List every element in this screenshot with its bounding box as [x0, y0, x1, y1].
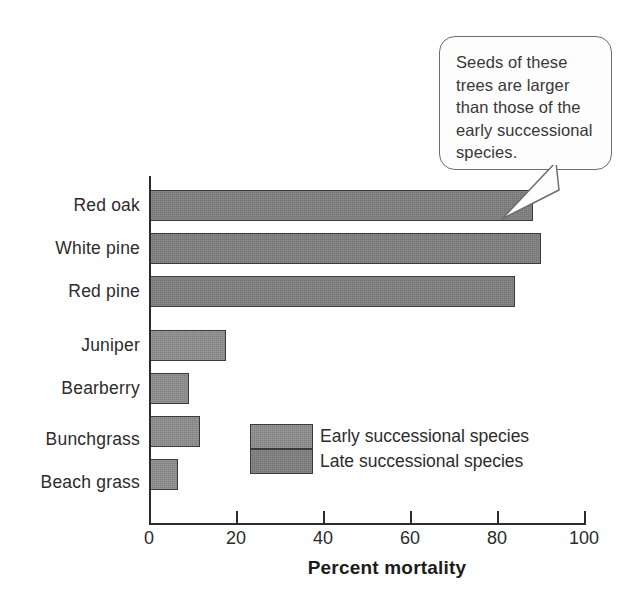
x-tick-60 [410, 511, 412, 523]
x-tick-label-60: 60 [400, 529, 420, 547]
x-tick-80 [497, 511, 499, 523]
bar-bearberry [150, 373, 189, 404]
bar-chart: Red oak White pine Red pine Juniper Bear… [0, 0, 634, 607]
x-tick-100 [584, 511, 586, 523]
annotation-callout: Seeds of these trees are larger than tho… [439, 36, 612, 170]
x-axis-line [149, 523, 586, 525]
x-axis-title: Percent mortality [0, 558, 634, 577]
legend-swatch-early-icon [250, 424, 313, 449]
bar-beach-grass [150, 459, 178, 490]
bar-red-oak [150, 190, 533, 221]
x-tick-label-100: 100 [569, 529, 599, 547]
category-label-white-pine: White pine [55, 240, 140, 258]
x-tick-label-0: 0 [144, 529, 154, 547]
category-label-juniper: Juniper [81, 337, 140, 355]
legend-label-early: Early successional species [320, 425, 529, 448]
y-axis-line [149, 176, 151, 524]
x-tick-label-20: 20 [226, 529, 246, 547]
category-label-bunchgrass: Bunchgrass [46, 431, 140, 449]
bar-juniper [150, 330, 226, 361]
annotation-callout-text: Seeds of these trees are larger than tho… [456, 51, 597, 164]
category-label-red-pine: Red pine [68, 283, 140, 301]
legend-swatch-late-icon [250, 449, 313, 474]
bar-white-pine [150, 233, 542, 264]
x-tick-40 [323, 511, 325, 523]
category-label-red-oak: Red oak [73, 197, 140, 215]
category-label-beach-grass: Beach grass [41, 474, 140, 492]
legend-label-late: Late successional species [320, 450, 523, 473]
category-label-bearberry: Bearberry [61, 380, 140, 398]
x-tick-20 [236, 511, 238, 523]
bar-bunchgrass [150, 416, 200, 447]
x-tick-label-80: 80 [487, 529, 507, 547]
x-tick-0 [149, 511, 151, 523]
bar-red-pine [150, 276, 516, 307]
x-tick-label-40: 40 [313, 529, 333, 547]
